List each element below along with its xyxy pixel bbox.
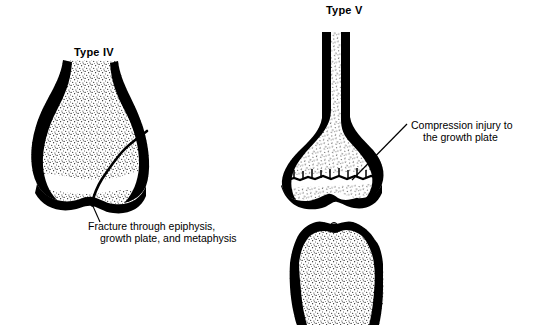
type-v-caption-line-2: the growth plate <box>411 132 513 144</box>
type-v-caption: Compression injury to the growth plate <box>411 120 513 143</box>
type-iv-caption: Fracture through epiphysis, growth plate… <box>88 221 237 244</box>
type-v-bone <box>275 28 407 325</box>
type-iv-bone <box>20 50 170 222</box>
type-iv-caption-line-2: growth plate, and metaphysis <box>88 233 237 245</box>
type-v-label: Type V <box>326 4 362 16</box>
figure-canvas: Type IV Type V Fracture through epiphysi… <box>0 0 546 325</box>
type-iv-label: Type IV <box>74 46 114 58</box>
type-iv-caption-line-1: Fracture through epiphysis, <box>88 220 215 232</box>
type-v-caption-line-1: Compression injury to <box>411 119 513 131</box>
